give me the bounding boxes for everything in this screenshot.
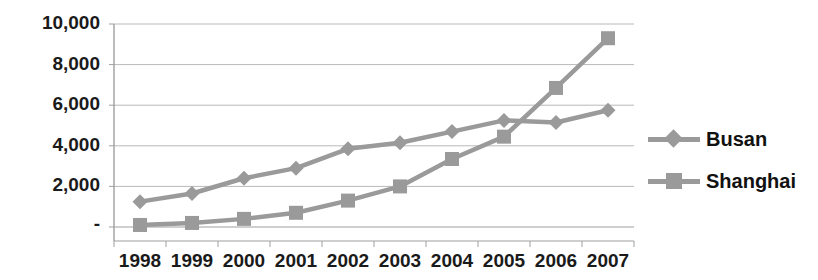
data-point-square <box>601 31 615 45</box>
data-point-square <box>237 212 251 226</box>
legend-key-square-icon <box>648 173 700 189</box>
data-series-layer <box>133 31 616 232</box>
axis-lines <box>114 24 634 241</box>
data-point-square <box>497 130 511 144</box>
y-axis-tick-label: 2,000 <box>0 174 100 196</box>
line-chart: -2,0004,0006,0008,00010,000 199819992000… <box>0 0 818 280</box>
y-axis-tick-label: - <box>0 213 100 235</box>
x-axis-tick-label: 2006 <box>530 250 582 272</box>
legend-label-busan: Busan <box>706 128 767 151</box>
x-axis-tick-label: 2003 <box>374 250 426 272</box>
x-axis-tick-label: 2004 <box>426 250 478 272</box>
y-axis-tick-label: 8,000 <box>0 53 100 75</box>
data-point-square <box>549 81 563 95</box>
data-point-diamond <box>497 113 512 128</box>
series-shanghai <box>133 31 615 232</box>
x-axis-tick-label: 2007 <box>582 250 634 272</box>
x-axis-ticks <box>114 241 634 247</box>
series-line <box>140 110 608 201</box>
data-point-diamond <box>133 194 148 209</box>
data-point-diamond <box>341 141 356 156</box>
x-axis-tick-label: 2002 <box>322 250 374 272</box>
x-axis-tick-label: 2005 <box>478 250 530 272</box>
data-point-square <box>393 179 407 193</box>
data-point-diamond <box>289 161 304 176</box>
x-axis-tick-label: 2001 <box>270 250 322 272</box>
x-axis-tick-label: 2000 <box>218 250 270 272</box>
data-point-diamond <box>237 171 252 186</box>
chart-legend: Busan Shanghai <box>648 118 818 202</box>
y-axis-tick-label: 10,000 <box>0 12 100 34</box>
x-axis-tick-label: 1999 <box>166 250 218 272</box>
x-axis-tick-label: 1998 <box>114 250 166 272</box>
data-point-diamond <box>549 115 564 130</box>
data-point-square <box>133 218 147 232</box>
legend-label-shanghai: Shanghai <box>706 170 796 193</box>
data-point-square <box>185 216 199 230</box>
data-point-diamond <box>185 186 200 201</box>
legend-item-busan: Busan <box>648 118 818 160</box>
data-point-square <box>445 152 459 166</box>
data-point-square <box>289 206 303 220</box>
data-point-square <box>341 194 355 208</box>
legend-key-diamond-icon <box>648 131 700 147</box>
legend-item-shanghai: Shanghai <box>648 160 818 202</box>
y-axis-tick-label: 4,000 <box>0 134 100 156</box>
y-axis-tick-label: 6,000 <box>0 93 100 115</box>
data-point-diamond <box>445 124 460 139</box>
series-line <box>140 38 608 225</box>
data-point-diamond <box>393 135 408 150</box>
